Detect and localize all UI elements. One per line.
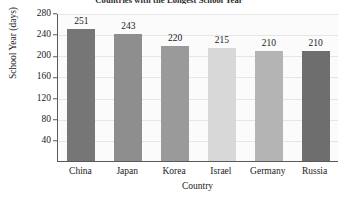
bar-value-label: 210 <box>308 39 322 49</box>
bar[interactable] <box>208 48 236 162</box>
x-axis-tick-label: Germany <box>244 166 291 176</box>
y-axis-tick: 280 <box>37 9 57 19</box>
y-axis-tick: 40 <box>42 136 58 146</box>
y-axis-tick: 120 <box>37 94 57 104</box>
y-axis-tick-label: 240 <box>37 30 53 40</box>
gridline <box>58 120 338 121</box>
y-axis-tick-label: 80 <box>42 115 54 125</box>
bar[interactable] <box>114 34 142 162</box>
bar[interactable] <box>302 51 330 162</box>
bar-value-label: 243 <box>121 22 135 32</box>
y-axis-tick-label: 160 <box>37 73 53 83</box>
y-axis-tick-label: 120 <box>37 94 53 104</box>
x-axis-tick-label: Russia <box>291 166 338 176</box>
y-axis-tick: 160 <box>37 73 57 83</box>
bar-group[interactable]: 243 <box>114 22 142 162</box>
gridline <box>58 77 338 78</box>
bar-group[interactable]: 210 <box>255 39 283 162</box>
plot-area: 251243220215210210 <box>57 14 338 162</box>
y-axis-tick-label: 40 <box>42 136 54 146</box>
bar-group[interactable]: 210 <box>302 39 330 162</box>
y-axis-tick-label: 280 <box>37 9 53 19</box>
x-axis-line <box>57 161 338 162</box>
bar-value-label: 220 <box>168 34 182 44</box>
bar-chart-figure: Countries with the Longest School Year S… <box>0 0 338 207</box>
bar[interactable] <box>161 46 189 162</box>
bar[interactable] <box>255 51 283 162</box>
x-axis-tick-label: Japan <box>104 166 151 176</box>
bar-value-label: 210 <box>262 39 276 49</box>
gridline <box>58 35 338 36</box>
bar-group[interactable]: 215 <box>208 36 236 162</box>
y-axis-tick: 200 <box>37 52 57 62</box>
x-axis-tick-label: Korea <box>151 166 198 176</box>
x-axis-title: Country <box>57 181 338 191</box>
y-axis-tick: 80 <box>42 115 58 125</box>
gridlines <box>58 14 338 162</box>
y-axis-tick-label: 200 <box>37 52 53 62</box>
gridline <box>58 99 338 100</box>
gridline <box>58 14 338 15</box>
x-axis-tick-label: Israel <box>198 166 245 176</box>
bar[interactable] <box>67 29 95 162</box>
gridline <box>58 141 338 142</box>
y-axis-ticks: 2802402001601208040 <box>0 0 57 207</box>
x-axis-tick-label: China <box>57 166 104 176</box>
bar-group[interactable]: 251 <box>67 17 95 162</box>
bar-value-label: 251 <box>74 17 88 27</box>
bar-group[interactable]: 220 <box>161 34 189 162</box>
gridline <box>58 56 338 57</box>
y-axis-tick: 240 <box>37 30 57 40</box>
bar-value-label: 215 <box>215 36 229 46</box>
